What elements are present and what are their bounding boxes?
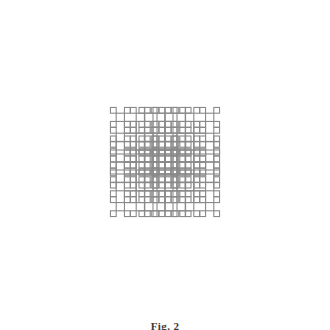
figure-caption: Fig. 2 [0, 320, 330, 330]
